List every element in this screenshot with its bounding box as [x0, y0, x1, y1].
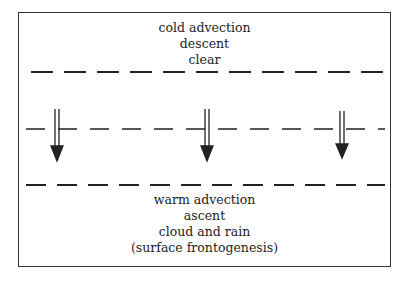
arrow-down-icon-right — [336, 111, 348, 158]
label-warm-advection: warm advection — [18, 192, 391, 208]
arrow-down-icon-center — [201, 109, 213, 161]
bottom-region-labels: warm advection ascent cloud and rain (su… — [18, 192, 391, 256]
label-surface-frontogenesis: (surface frontogenesis) — [18, 240, 391, 256]
label-ascent: ascent — [18, 208, 391, 224]
label-cloud-and-rain: cloud and rain — [18, 224, 391, 240]
arrow-down-icon-left — [51, 109, 63, 161]
